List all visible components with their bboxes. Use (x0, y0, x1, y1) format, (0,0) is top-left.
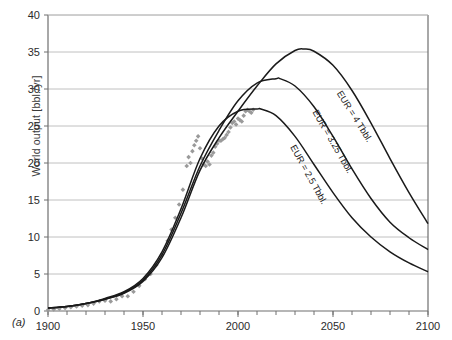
x-tick-label-1900: 1900 (36, 320, 60, 332)
y-tick-label-10: 10 (28, 231, 40, 243)
scatter-point (186, 155, 191, 160)
figure-panel: World output [bbl./yr] (a) 0510152025303… (0, 0, 452, 340)
x-tick-label-2050: 2050 (321, 320, 345, 332)
x-tick-label-2000: 2000 (226, 320, 250, 332)
y-tick-label-25: 25 (28, 120, 40, 132)
scatter-point (181, 187, 186, 192)
y-tick-label-30: 30 (28, 83, 40, 95)
scatter-point (188, 161, 193, 166)
scatter-point (126, 294, 131, 299)
scatter-point (114, 297, 119, 302)
scatter-series-historical (46, 107, 256, 312)
curve-annotation-1: EUR = 3.25 Tbbl. (310, 108, 354, 175)
y-tick-label-20: 20 (28, 157, 40, 169)
y-tick-label-0: 0 (34, 305, 40, 317)
y-tick-label-5: 5 (34, 268, 40, 280)
y-tick-label-35: 35 (28, 46, 40, 58)
scatter-point (177, 202, 182, 207)
world-output-chart: 051015202530354019001950200020502100EUR … (0, 0, 452, 340)
scatter-point (108, 299, 113, 304)
scatter-point (194, 139, 199, 144)
curve-annotation-2: EUR = 2.5 Tbbl. (288, 143, 329, 206)
x-tick-label-1950: 1950 (131, 320, 155, 332)
y-tick-label-15: 15 (28, 194, 40, 206)
scatter-point (196, 134, 201, 139)
scatter-point (184, 164, 189, 169)
y-tick-label-40: 40 (28, 9, 40, 21)
scatter-point (241, 113, 246, 118)
scatter-point (190, 149, 195, 154)
curve-annotation-0: EUR = 4 Tbbl. (335, 89, 374, 144)
scatter-point (131, 289, 136, 294)
scatter-point (192, 143, 197, 148)
x-tick-label-2100: 2100 (416, 320, 440, 332)
scatter-point (198, 146, 203, 151)
curve-eur-0 (48, 49, 428, 308)
